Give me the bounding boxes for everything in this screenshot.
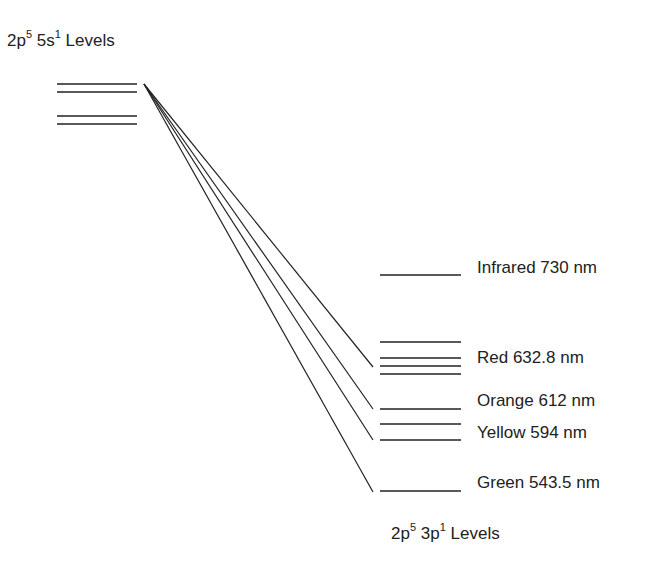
wavelength-label: Orange 612 nm (477, 391, 595, 411)
wavelength-label: Red 632.8 nm (477, 348, 584, 368)
transition-line (144, 84, 373, 409)
wavelength-label: Yellow 594 nm (477, 423, 587, 443)
wavelength-label: Green 543.5 nm (477, 473, 600, 493)
transition-line (144, 84, 373, 492)
transition-line (144, 84, 373, 367)
transition-line (144, 84, 373, 440)
wavelength-label: Infrared 730 nm (477, 258, 597, 278)
